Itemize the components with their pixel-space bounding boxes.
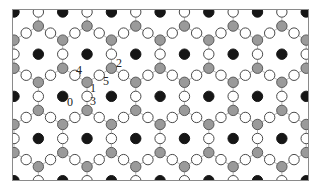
white-atom [313,112,316,122]
white-atom [21,70,31,80]
black-atom [204,7,214,17]
white-atom [70,154,80,164]
white-atom [289,112,299,122]
white-atom [143,154,153,164]
gray-atom [58,147,68,157]
white-atom [45,154,55,164]
black-atom [131,133,141,143]
gray-atom [252,119,262,129]
white-atom [33,91,43,101]
gray-atom [179,0,189,3]
black-atom [252,91,262,101]
site-label-5: 5 [103,74,109,88]
black-atom [82,133,92,143]
white-atom [277,7,287,17]
gray-atom [58,63,68,73]
white-atom [252,133,262,143]
white-atom [313,28,316,38]
gray-atom [82,161,92,171]
white-atom [216,154,226,164]
gray-atom [106,119,116,129]
gray-atom [301,119,311,129]
white-atom [240,70,250,80]
black-atom [301,91,311,101]
gray-atom [9,63,19,73]
white-atom [45,112,55,122]
white-atom [167,28,177,38]
black-atom [106,91,116,101]
white-atom [228,7,238,17]
white-atom [33,7,43,17]
gray-atom [131,161,141,171]
gray-atom [204,119,214,129]
white-atom [0,154,7,164]
white-atom [228,91,238,101]
gray-atom [252,147,262,157]
black-atom [277,133,287,143]
site-label-3: 3 [90,94,96,108]
black-atom [277,49,287,59]
site-label-0: 0 [67,95,73,109]
white-atom [45,28,55,38]
black-atom [155,7,165,17]
white-atom [277,91,287,101]
white-atom [82,7,92,17]
white-atom [45,70,55,80]
gray-atom [9,119,19,129]
white-atom [0,28,7,38]
gray-atom [228,0,238,3]
gray-atom [155,35,165,45]
gray-atom [33,161,43,171]
black-atom [9,91,19,101]
gray-atom [155,147,165,157]
white-atom [179,91,189,101]
gray-atom [301,35,311,45]
white-atom [94,112,104,122]
white-atom [94,154,104,164]
white-atom [0,112,7,122]
gray-atom [228,21,238,31]
site-label-4: 4 [76,63,82,77]
black-atom [301,7,311,17]
white-atom [143,28,153,38]
white-atom [0,70,7,80]
white-atom [289,70,299,80]
black-atom [33,133,43,143]
white-atom [131,91,141,101]
gray-atom [301,63,311,73]
black-atom [252,7,262,17]
white-atom [240,112,250,122]
white-atom [94,28,104,38]
gray-atom [204,35,214,45]
black-atom [179,49,189,59]
gray-atom [106,35,116,45]
gray-atom [33,0,43,3]
white-atom [143,70,153,80]
white-atom [143,112,153,122]
gray-atom [82,0,92,3]
white-atom [167,154,177,164]
white-atom [252,49,262,59]
gray-atom [301,147,311,157]
atoms-layer [0,0,316,187]
gray-atom [33,105,43,115]
white-atom [191,28,201,38]
white-atom [191,70,201,80]
white-atom [240,28,250,38]
gray-atom [179,161,189,171]
white-atom [301,49,311,59]
white-atom [167,112,177,122]
gray-atom [228,161,238,171]
gray-atom [277,21,287,31]
white-atom [204,49,214,59]
black-atom [155,91,165,101]
white-atom [58,49,68,59]
gray-atom [155,119,165,129]
white-atom [240,154,250,164]
site-label-2: 2 [116,56,122,70]
black-atom [228,133,238,143]
white-atom [118,112,128,122]
black-atom [106,7,116,17]
gray-atom [106,147,116,157]
gray-atom [131,77,141,87]
